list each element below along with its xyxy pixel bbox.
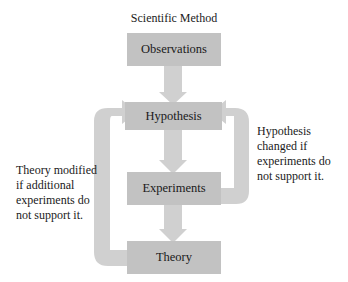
note-line: experiments do — [257, 154, 331, 169]
note-line: Hypothesis — [257, 124, 331, 139]
arrow-hypothesis-to-experiments — [159, 130, 187, 174]
node-theory: Theory — [127, 241, 221, 274]
note-hypothesis-changed: Hypothesis changed if experiments do not… — [257, 124, 331, 184]
note-line: if additional — [16, 178, 97, 193]
note-theory-modified: Theory modified if additional experiment… — [16, 163, 97, 223]
node-hypothesis: Hypothesis — [125, 102, 222, 130]
node-experiments: Experiments — [127, 172, 221, 205]
arrow-experiments-to-theory — [159, 205, 187, 243]
arrow-observations-to-hypothesis — [159, 66, 187, 105]
note-line: changed if — [257, 139, 331, 154]
note-line: experiments do — [16, 193, 97, 208]
note-line: not support it. — [16, 208, 97, 223]
node-observations: Observations — [127, 33, 221, 66]
note-line: not support it. — [257, 169, 331, 184]
note-line: Theory modified — [16, 163, 97, 178]
